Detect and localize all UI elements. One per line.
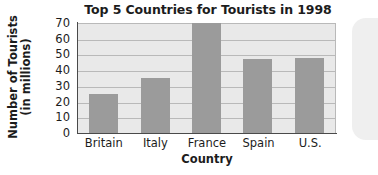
bar-slot	[232, 24, 283, 133]
bar	[295, 58, 324, 133]
y-axis-tick-labels: 706050403020100	[44, 23, 74, 133]
bar-slot	[78, 24, 129, 133]
bar	[243, 59, 272, 133]
y-axis-title-line-2: (in millions)	[20, 15, 33, 139]
page-edge-artifact	[352, 18, 378, 140]
y-axis-tick-label: 50	[55, 47, 70, 61]
y-axis-tick-label: 10	[55, 110, 70, 124]
x-axis-tick-label: France	[181, 136, 233, 152]
x-axis-title: Country	[78, 152, 336, 166]
y-axis-tick-label: 70	[55, 16, 70, 30]
y-axis-title-text: Number of Tourists (in millions)	[7, 15, 33, 139]
bar	[89, 94, 118, 133]
y-axis-tick-label: 20	[55, 95, 70, 109]
x-axis-tick-label: Britain	[78, 136, 130, 152]
bar-slot	[284, 24, 335, 133]
bar	[141, 78, 170, 133]
chart-title: Top 5 Countries for Tourists in 1998	[78, 2, 338, 17]
x-axis-tick-labels: BritainItalyFranceSpainU.S.	[78, 136, 336, 152]
plot-area	[78, 23, 336, 133]
bar-slot	[129, 24, 180, 133]
bar	[192, 23, 221, 133]
x-axis-line	[77, 133, 337, 134]
x-axis-tick-label: U.S.	[284, 136, 336, 152]
y-axis-title: Number of Tourists (in millions)	[0, 18, 40, 136]
y-axis-title-line-1: Number of Tourists	[6, 15, 20, 139]
bar-series	[78, 24, 335, 133]
y-axis-tick-label: 60	[55, 32, 70, 46]
x-axis-tick-label: Spain	[233, 136, 285, 152]
x-axis-tick-label: Italy	[130, 136, 182, 152]
bar-slot	[181, 24, 232, 133]
y-axis-tick-label: 0	[63, 126, 70, 140]
y-axis-tick-label: 40	[55, 63, 70, 77]
y-axis-tick-label: 30	[55, 79, 70, 93]
